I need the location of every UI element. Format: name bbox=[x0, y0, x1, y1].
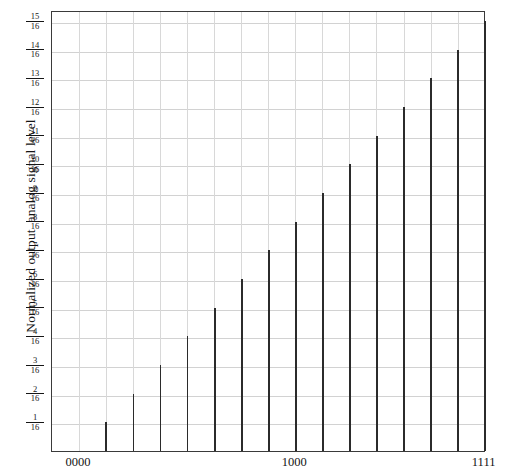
y-tick-label: 416 bbox=[22, 327, 48, 345]
bar bbox=[322, 193, 324, 451]
x-tick-label: 1000 bbox=[254, 455, 334, 470]
y-tick-denominator: 16 bbox=[22, 366, 48, 375]
y-tick-denominator: 16 bbox=[22, 79, 48, 88]
y-tick-label: 1316 bbox=[22, 69, 48, 87]
vertical-gridline bbox=[106, 12, 107, 451]
y-tick-label: 1016 bbox=[22, 155, 48, 173]
y-tick-denominator: 16 bbox=[22, 165, 48, 174]
chart-figure: Normalized output analog signal level 15… bbox=[0, 0, 510, 472]
y-tick-denominator: 16 bbox=[22, 136, 48, 145]
bar bbox=[187, 336, 189, 451]
bar bbox=[214, 308, 216, 451]
bar bbox=[268, 250, 270, 451]
y-tick-label: 116 bbox=[22, 413, 48, 431]
bar bbox=[484, 21, 486, 451]
y-axis-tick-labels: 1516141613161216111610169168167166165164… bbox=[14, 0, 48, 472]
y-tick-denominator: 16 bbox=[22, 194, 48, 203]
bar bbox=[403, 107, 405, 451]
y-tick-denominator: 16 bbox=[22, 280, 48, 289]
y-tick-label: 1516 bbox=[22, 12, 48, 30]
y-tick-label: 916 bbox=[22, 184, 48, 202]
y-tick-denominator: 16 bbox=[22, 50, 48, 59]
y-tick-label: 316 bbox=[22, 356, 48, 374]
x-tick-label: 0000 bbox=[38, 455, 118, 470]
bar bbox=[241, 279, 243, 451]
vertical-gridline bbox=[133, 12, 134, 451]
bar bbox=[457, 50, 459, 451]
y-tick-denominator: 16 bbox=[22, 22, 48, 31]
vertical-gridline bbox=[79, 12, 80, 451]
y-tick-denominator: 16 bbox=[22, 108, 48, 117]
x-tick-label: 1111 bbox=[444, 455, 510, 470]
y-tick-denominator: 16 bbox=[22, 394, 48, 403]
y-tick-label: 716 bbox=[22, 241, 48, 259]
bar bbox=[133, 394, 135, 451]
y-tick-label: 1116 bbox=[22, 127, 48, 145]
y-tick-denominator: 16 bbox=[22, 222, 48, 231]
bar bbox=[295, 222, 297, 451]
y-tick-label: 816 bbox=[22, 213, 48, 231]
bar bbox=[105, 422, 107, 451]
y-tick-denominator: 16 bbox=[22, 423, 48, 432]
bar bbox=[376, 136, 378, 451]
bar bbox=[349, 164, 351, 451]
y-tick-label: 1416 bbox=[22, 41, 48, 59]
y-tick-label: 616 bbox=[22, 270, 48, 288]
y-tick-denominator: 16 bbox=[22, 308, 48, 317]
y-tick-denominator: 16 bbox=[22, 251, 48, 260]
y-tick-label: 516 bbox=[22, 299, 48, 317]
y-tick-label: 216 bbox=[22, 385, 48, 403]
y-tick-label: 1216 bbox=[22, 98, 48, 116]
bar bbox=[430, 78, 432, 451]
plot-area bbox=[51, 11, 485, 452]
y-tick-denominator: 16 bbox=[22, 337, 48, 346]
bar bbox=[160, 365, 162, 451]
